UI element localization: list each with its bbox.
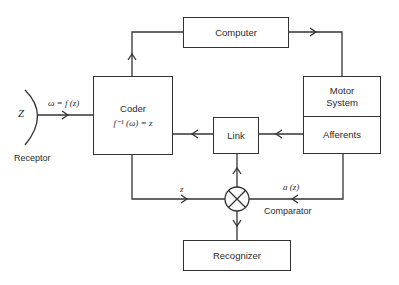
recognizer-label: Recognizer: [213, 250, 261, 262]
omega-label: ω = f (z): [48, 98, 79, 108]
motor-system-box: Motor System: [303, 76, 381, 117]
afferents-box: Afferents: [303, 116, 381, 154]
z-signal-label: z: [180, 184, 184, 194]
recognizer-box: Recognizer: [183, 240, 291, 271]
a-z-label: a (z): [283, 182, 299, 192]
motor-label-line2: System: [326, 97, 358, 109]
afferents-label: Afferents: [323, 129, 361, 141]
link-box: Link: [213, 117, 259, 154]
z-input-label: Z: [18, 107, 24, 119]
comparator-label: Comparator: [264, 206, 312, 216]
coder-label: Coder: [120, 103, 146, 115]
coder-formula: f⁻¹ (ω) = z: [114, 117, 153, 129]
computer-label: Computer: [215, 27, 257, 39]
receptor-label: Receptor: [14, 153, 51, 163]
link-label: Link: [227, 130, 244, 142]
motor-label-line1: Motor: [330, 85, 354, 97]
coder-box: Coder f⁻¹ (ω) = z: [93, 76, 173, 155]
receptor-arc: [25, 90, 38, 145]
computer-box: Computer: [183, 17, 289, 48]
